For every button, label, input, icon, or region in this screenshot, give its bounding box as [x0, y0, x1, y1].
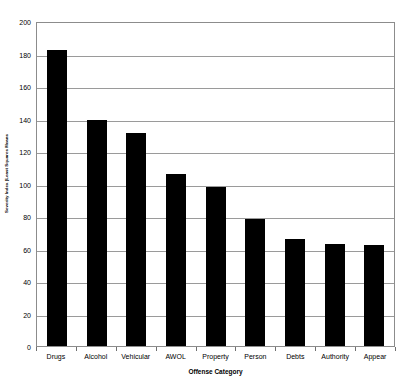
bars-container	[37, 23, 394, 346]
y-axis-tick-label: 200	[19, 19, 31, 26]
bar-slot	[315, 23, 355, 346]
bar-slot	[196, 23, 236, 346]
plot-area	[36, 22, 395, 347]
y-axis-tick-labels: 200180160140120100806040200	[14, 0, 34, 382]
x-axis-tick-label: Authority	[315, 353, 355, 367]
x-axis-tick-mark	[355, 347, 356, 351]
x-axis-tick-labels: DrugsAlcoholVehicularAWOLPropertyPersonD…	[36, 353, 395, 367]
bar-slot	[275, 23, 315, 346]
bar[interactable]	[245, 219, 265, 346]
x-axis-tick-label: Alcohol	[76, 353, 116, 367]
bar-slot	[354, 23, 394, 346]
y-axis-tick-label: 40	[23, 279, 31, 286]
x-axis-tick-label: Person	[235, 353, 275, 367]
bar-slot	[116, 23, 156, 346]
bar[interactable]	[47, 50, 67, 346]
y-axis-tick-label: 160	[19, 84, 31, 91]
bar[interactable]	[325, 244, 345, 346]
bar-chart: Severity Index (Least Squares Means 2001…	[0, 0, 413, 382]
x-axis-tick-mark	[395, 347, 396, 351]
y-axis-tick-label: 100	[19, 181, 31, 188]
x-axis-tick-mark	[76, 347, 77, 351]
bar[interactable]	[166, 174, 186, 346]
y-axis-tick-label: 0	[27, 344, 31, 351]
bar-slot	[156, 23, 196, 346]
y-axis-tick-label: 60	[23, 246, 31, 253]
bar[interactable]	[206, 187, 226, 346]
x-axis-tick-label: Vehicular	[116, 353, 156, 367]
y-axis-title-text: Severity Index (Least Squares Means	[5, 134, 10, 213]
x-axis-tick-marks	[36, 347, 395, 352]
y-axis-tick-label: 180	[19, 51, 31, 58]
x-axis-tick-label: Appear	[355, 353, 395, 367]
x-axis-tick-mark	[156, 347, 157, 351]
x-axis-tick-label: Drugs	[36, 353, 76, 367]
x-axis-tick-mark	[196, 347, 197, 351]
bar[interactable]	[364, 245, 384, 346]
x-axis-tick-mark	[36, 347, 37, 351]
y-axis-tick-label: 140	[19, 116, 31, 123]
x-axis-title: Offense Category	[36, 368, 395, 375]
y-axis-title: Severity Index (Least Squares Means	[0, 0, 14, 347]
x-axis-tick-label: AWOL	[156, 353, 196, 367]
y-axis-tick-label: 20	[23, 311, 31, 318]
y-axis-tick-label: 80	[23, 214, 31, 221]
x-axis-tick-mark	[116, 347, 117, 351]
x-axis-tick-mark	[315, 347, 316, 351]
x-axis-tick-label: Debts	[275, 353, 315, 367]
bar[interactable]	[87, 120, 107, 346]
bar-slot	[235, 23, 275, 346]
x-axis-tick-label: Property	[196, 353, 236, 367]
bar-slot	[77, 23, 117, 346]
x-axis-tick-mark	[275, 347, 276, 351]
x-axis-tick-mark	[235, 347, 236, 351]
bar[interactable]	[285, 239, 305, 346]
bar-slot	[37, 23, 77, 346]
y-axis-tick-label: 120	[19, 149, 31, 156]
bar[interactable]	[126, 133, 146, 346]
